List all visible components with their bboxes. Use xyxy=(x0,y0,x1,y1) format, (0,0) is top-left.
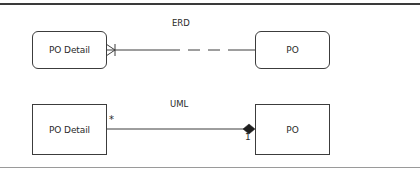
uml-multiplicity-one: 1 xyxy=(245,132,251,142)
uml-class-po-detail: PO Detail xyxy=(32,104,107,155)
uml-class-po-label: PO xyxy=(286,125,298,135)
crows-foot-icon xyxy=(106,44,115,56)
uml-title: UML xyxy=(170,99,188,109)
figure-frame: ERD PO Detail PO UML PO Detail PO * 1 xyxy=(0,0,420,170)
uml-class-po: PO xyxy=(255,104,330,155)
uml-multiplicity-many: * xyxy=(109,114,114,125)
uml-class-po-detail-label: PO Detail xyxy=(49,125,90,135)
erd-entity-po: PO xyxy=(255,31,330,69)
erd-entity-po-label: PO xyxy=(286,45,298,55)
erd-title: ERD xyxy=(172,18,190,28)
erd-entity-po-detail: PO Detail xyxy=(32,31,107,69)
erd-entity-po-detail-label: PO Detail xyxy=(49,45,90,55)
